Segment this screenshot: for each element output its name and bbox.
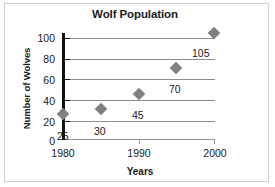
x-tick-label-1980: 1980 — [43, 147, 83, 159]
data-point[interactable] — [133, 88, 146, 101]
y-tick-label-0: 0 — [29, 135, 55, 147]
y-tick-label-80: 80 — [29, 53, 55, 65]
y-axis-tick-20 — [65, 121, 70, 122]
x-axis-tick-1990 — [139, 139, 140, 144]
y-axis-tick-40 — [65, 100, 70, 101]
plot-area: 25 30 45 70 105 — [63, 33, 215, 144]
data-point-label: 70 — [169, 83, 181, 95]
y-axis-tick-100 — [65, 38, 70, 39]
x-axis-title: Years — [60, 166, 220, 177]
chart-title: Wolf Population — [55, 8, 215, 20]
data-point[interactable] — [95, 103, 108, 116]
data-point-label: 45 — [132, 109, 144, 121]
gridline-60 — [63, 79, 215, 80]
y-tick-label-20: 20 — [29, 116, 55, 128]
x-axis-tick-2000 — [214, 139, 215, 144]
data-point-label: 30 — [94, 125, 106, 137]
y-tick-label-40: 40 — [29, 95, 55, 107]
y-tick-label-100: 100 — [29, 32, 55, 44]
y-axis-line — [62, 33, 65, 140]
gridline-20 — [63, 121, 215, 122]
data-point-label: 105 — [192, 47, 210, 59]
x-tick-label-1990: 1990 — [119, 147, 159, 159]
chart-screenshot: Wolf Population Number of Wolves Years 1… — [0, 0, 275, 187]
y-axis-tick-80 — [65, 59, 70, 60]
x-tick-label-2000: 2000 — [195, 147, 235, 159]
data-point-label: 25 — [57, 130, 69, 142]
y-axis-tick-60 — [65, 79, 70, 80]
data-point[interactable] — [170, 62, 183, 75]
gridline-100 — [63, 38, 215, 39]
y-tick-label-60: 60 — [29, 74, 55, 86]
gridline-80 — [63, 59, 215, 60]
